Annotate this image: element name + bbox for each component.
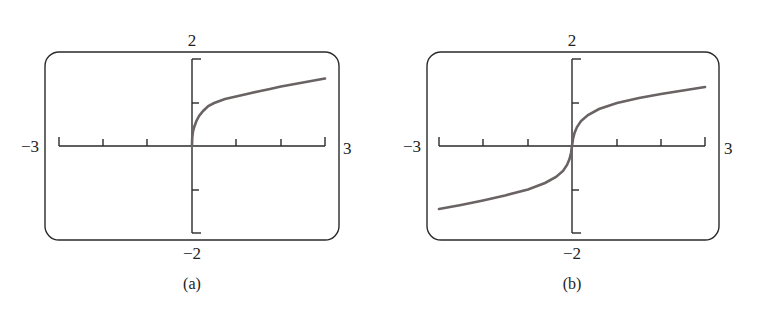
ymin-label-b: −2 [563,244,581,263]
panel-a: 2 −2 −3 3 (a) [21,31,352,293]
ymin-label-a: −2 [183,244,201,263]
figure: 2 −2 −3 3 (a) 2 −2 −3 3 (b) [0,0,758,313]
xmin-label-b: −3 [403,137,421,156]
caption-a: (a) [183,275,201,293]
ymax-label-a: 2 [188,31,197,50]
xmin-label-a: −3 [21,137,39,156]
panel-b: 2 −2 −3 3 (b) [403,31,733,293]
xmax-label-b: 3 [724,139,733,158]
ymax-label-b: 2 [568,31,577,50]
xmax-label-a: 3 [343,139,352,158]
curve-a [192,79,325,147]
caption-b: (b) [563,275,582,293]
